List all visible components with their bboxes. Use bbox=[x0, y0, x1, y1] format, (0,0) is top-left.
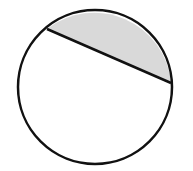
circle-chord-diagram bbox=[0, 0, 193, 171]
diagram-canvas bbox=[0, 0, 193, 171]
shaded-minor-segment bbox=[47, 13, 171, 83]
